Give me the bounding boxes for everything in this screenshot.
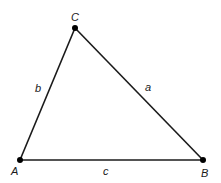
vertex-b-dot <box>200 157 206 163</box>
vertex-c-label: C <box>71 11 79 23</box>
vertex-c-dot <box>72 25 78 31</box>
vertex-a-dot <box>17 157 23 163</box>
vertex-b-label: B <box>201 167 208 179</box>
vertex-a-label: A <box>10 165 18 177</box>
side-b-label: b <box>35 82 41 94</box>
side-a <box>75 28 203 160</box>
side-a-label: a <box>145 81 151 93</box>
triangle-diagram: A B C a b c <box>0 0 221 183</box>
side-b <box>20 28 75 160</box>
side-c-label: c <box>103 165 109 177</box>
